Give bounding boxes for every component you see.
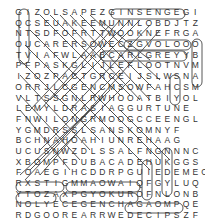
letter-cell[interactable]: E [144, 7, 153, 18]
letter-cell[interactable]: O [172, 39, 181, 50]
letter-cell[interactable]: O [98, 178, 107, 189]
letter-cell[interactable]: L [51, 7, 60, 18]
letter-cell[interactable]: U [163, 103, 172, 114]
letter-cell[interactable]: N [42, 135, 51, 146]
letter-cell[interactable]: F [172, 125, 181, 136]
letter-cell[interactable]: O [23, 167, 32, 178]
letter-cell[interactable]: H [144, 157, 153, 168]
letter-cell[interactable]: R [33, 82, 42, 93]
letter-cell[interactable]: Y [181, 50, 190, 61]
letter-cell[interactable]: C [135, 114, 144, 125]
letter-cell[interactable]: Q [191, 178, 200, 189]
letter-cell[interactable]: O [70, 135, 79, 146]
letter-cell[interactable]: H [33, 135, 42, 146]
letter-cell[interactable]: P [14, 60, 23, 71]
letter-cell[interactable]: A [116, 157, 125, 168]
letter-cell[interactable]: T [33, 93, 42, 104]
letter-cell[interactable]: E [172, 7, 181, 18]
letter-cell[interactable]: O [116, 28, 125, 39]
letter-cell[interactable]: N [51, 146, 60, 157]
letter-cell[interactable]: O [153, 60, 162, 71]
letter-cell[interactable]: C [107, 157, 116, 168]
letter-cell[interactable]: S [172, 71, 181, 82]
letter-cell[interactable]: E [135, 210, 144, 218]
letter-cell[interactable]: T [181, 18, 190, 29]
letter-cell[interactable]: S [88, 103, 97, 114]
letter-cell[interactable]: O [107, 114, 116, 125]
letter-cell[interactable]: A [163, 135, 172, 146]
letter-cell[interactable]: N [116, 18, 125, 29]
letter-cell[interactable]: A [33, 167, 42, 178]
letter-cell[interactable]: B [14, 135, 23, 146]
letter-cell[interactable]: E [116, 210, 125, 218]
letter-cell[interactable]: E [135, 157, 144, 168]
letter-cell[interactable]: C [60, 199, 69, 210]
letter-cell[interactable]: I [98, 103, 107, 114]
letter-cell[interactable]: A [107, 103, 116, 114]
letter-cell[interactable]: R [14, 178, 23, 189]
letter-cell[interactable]: A [153, 82, 162, 93]
letter-cell[interactable]: G [153, 146, 162, 157]
letter-cell[interactable]: C [144, 210, 153, 218]
letter-cell[interactable]: K [135, 28, 144, 39]
letter-cell[interactable]: K [70, 18, 79, 29]
letter-cell[interactable]: O [191, 39, 200, 50]
letter-cell[interactable]: P [163, 210, 172, 218]
letter-cell[interactable]: R [70, 103, 79, 114]
letter-cell[interactable]: E [153, 28, 162, 39]
letter-cell[interactable]: C [23, 18, 32, 29]
letter-cell[interactable]: Z [191, 18, 200, 29]
letter-cell[interactable]: N [172, 103, 181, 114]
letter-cell[interactable]: N [172, 114, 181, 125]
letter-cell[interactable]: Z [70, 146, 79, 157]
letter-cell[interactable]: R [126, 135, 135, 146]
letter-cell[interactable]: R [60, 210, 69, 218]
letter-cell[interactable]: M [191, 82, 200, 93]
letter-cell[interactable]: M [33, 125, 42, 136]
letter-cell[interactable]: N [181, 189, 190, 200]
letter-cell[interactable]: W [60, 50, 69, 61]
letter-cell[interactable]: O [98, 189, 107, 200]
letter-cell[interactable]: G [163, 7, 172, 18]
letter-cell[interactable]: D [23, 210, 32, 218]
letter-cell[interactable]: G [60, 178, 69, 189]
letter-cell[interactable]: B [191, 189, 200, 200]
letter-cell[interactable]: C [144, 114, 153, 125]
letter-cell[interactable]: E [181, 103, 190, 114]
letter-cell[interactable]: R [98, 210, 107, 218]
letter-cell[interactable]: H [144, 135, 153, 146]
letter-cell[interactable]: R [51, 39, 60, 50]
letter-cell[interactable]: C [60, 82, 69, 93]
letter-cell[interactable]: W [135, 82, 144, 93]
letter-cell[interactable]: O [126, 93, 135, 104]
letter-cell[interactable]: L [135, 18, 144, 29]
letter-cell[interactable]: G [172, 157, 181, 168]
letter-cell[interactable]: Z [181, 210, 190, 218]
letter-cell[interactable]: E [42, 18, 51, 29]
letter-cell[interactable]: D [163, 167, 172, 178]
letter-cell[interactable]: S [144, 71, 153, 82]
letter-cell[interactable]: I [98, 135, 107, 146]
letter-cell[interactable]: G [23, 125, 32, 136]
letter-cell[interactable]: S [172, 210, 181, 218]
letter-cell[interactable]: Z [33, 7, 42, 18]
letter-cell[interactable]: T [163, 60, 172, 71]
letter-cell[interactable]: C [107, 50, 116, 61]
letter-cell[interactable]: E [70, 199, 79, 210]
letter-cell[interactable]: L [191, 114, 200, 125]
letter-cell[interactable]: O [14, 39, 23, 50]
letter-cell[interactable]: E [172, 167, 181, 178]
letter-cell[interactable]: Q [14, 18, 23, 29]
letter-cell[interactable]: F [144, 189, 153, 200]
letter-cell[interactable]: G [79, 189, 88, 200]
letter-cell[interactable]: S [60, 125, 69, 136]
letter-cell[interactable]: F [60, 157, 69, 168]
letter-cell[interactable]: S [98, 146, 107, 157]
letter-cell[interactable]: I [144, 167, 153, 178]
letter-cell[interactable]: F [163, 28, 172, 39]
letter-cell[interactable]: G [181, 157, 190, 168]
letter-cell[interactable]: A [42, 50, 51, 61]
letter-cell[interactable]: H [70, 167, 79, 178]
letter-cell[interactable]: I [153, 210, 162, 218]
letter-cell[interactable]: G [135, 199, 144, 210]
